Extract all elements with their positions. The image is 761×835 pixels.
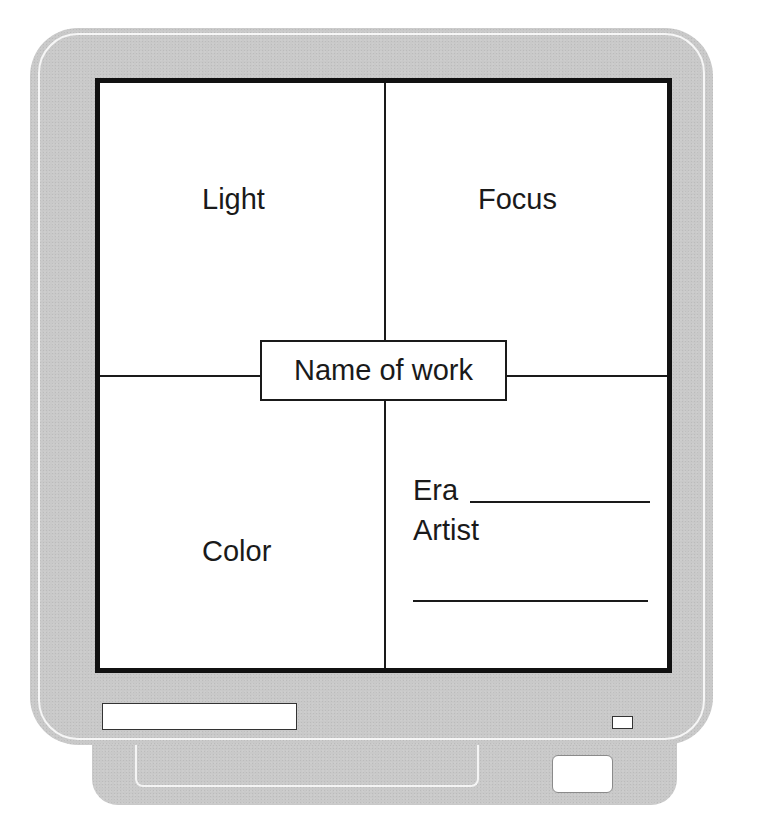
era-label: Era: [413, 476, 458, 505]
artist-blank-line[interactable]: [413, 600, 648, 602]
power-indicator-light: [612, 716, 633, 729]
monitor-base: [92, 735, 677, 805]
quadrant-color-label: Color: [202, 537, 271, 566]
base-panel: [135, 745, 479, 787]
disk-slot: [102, 703, 297, 730]
quadrant-focus-label: Focus: [478, 185, 557, 214]
era-row: Era: [413, 465, 663, 505]
artist-label: Artist: [413, 516, 479, 545]
power-button[interactable]: [552, 755, 613, 793]
graphic-organizer: Light Focus Color Name of work Era Artis…: [95, 78, 672, 673]
era-artist-block: Era Artist: [413, 465, 663, 545]
name-of-work-box[interactable]: Name of work: [260, 340, 507, 401]
quadrant-light-label: Light: [202, 185, 265, 214]
artist-row: Artist: [413, 505, 663, 545]
era-blank-line[interactable]: [470, 500, 650, 503]
